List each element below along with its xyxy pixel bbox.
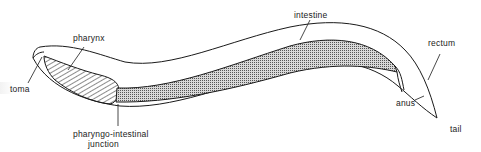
label-junction: junction (88, 139, 119, 149)
label-rectum: rectum (428, 38, 455, 48)
pharynx-shape (44, 56, 119, 104)
label-tail: tail (450, 124, 462, 134)
label-anus: anus (396, 98, 415, 108)
label-stoma: toma (10, 84, 30, 94)
label-pharynx: pharynx (73, 33, 105, 43)
nematode-diagram: toma pharynx pharyngo-intestinal junctio… (0, 0, 481, 152)
label-intestine: intestine (294, 10, 327, 20)
label-pharyngo-intestinal: pharyngo-intestinal (73, 129, 149, 139)
intestine-shape (116, 40, 397, 102)
